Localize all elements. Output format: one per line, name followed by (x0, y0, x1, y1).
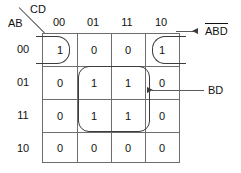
group-bd-outline (78, 66, 150, 132)
annotation-label-corner-term: ABD (205, 25, 228, 37)
column-variable-label: CD (30, 4, 46, 15)
cell-r3c3: 0 (145, 132, 179, 164)
row-header-2: 11 (8, 110, 38, 121)
column-header-3: 10 (144, 17, 178, 28)
cell-r1c0: 0 (43, 67, 77, 99)
row-variable-label: AB (8, 18, 23, 29)
cell-r2c3: 0 (145, 100, 179, 132)
karnaugh-map: CD AB 00 01 11 10 00 01 11 10 1 0 0 1 0 … (0, 0, 241, 173)
cell-r3c0: 0 (43, 132, 77, 164)
cell-r2c0: 0 (43, 100, 77, 132)
annotation-label-center-term: BD (208, 84, 223, 96)
column-header-2: 11 (110, 17, 144, 28)
cell-r0c1: 0 (77, 34, 111, 66)
row-header-1: 01 (8, 77, 38, 88)
annotation-part-a: A (205, 25, 212, 37)
group-corner-left-bracket (36, 36, 70, 64)
cell-r3c2: 0 (111, 132, 145, 164)
row-header-0: 00 (8, 44, 38, 55)
cell-r3c1: 0 (77, 132, 111, 164)
annotation-part-d: D (220, 25, 228, 37)
group-corner-right-bracket (152, 36, 186, 64)
cell-r0c2: 0 (111, 34, 145, 66)
annotation-part-b: B (212, 25, 219, 37)
row-header-3: 10 (8, 143, 38, 154)
arrow-left-icon-corner-term (192, 28, 198, 34)
cell-r1c3: 0 (145, 67, 179, 99)
leader-line-center-term (152, 90, 204, 91)
column-header-0: 00 (42, 17, 76, 28)
column-header-1: 01 (76, 17, 110, 28)
arrow-left-icon-center-term (147, 87, 153, 93)
